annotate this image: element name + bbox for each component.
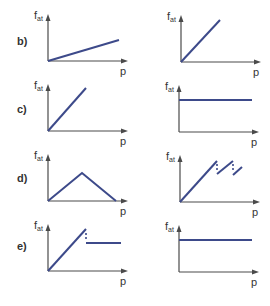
graph-b-left: fat p — [34, 9, 128, 77]
graph-e-right: fat p — [165, 220, 259, 288]
graph-c-right: fat p — [165, 80, 259, 148]
x-axis-label: p — [120, 275, 126, 287]
row-label-d: d) — [17, 172, 28, 184]
x-axis-label: p — [120, 65, 126, 77]
y-axis-label: fat — [165, 220, 174, 233]
graph-d-left: fat p — [34, 149, 128, 217]
graph-c-left: fat p — [34, 79, 128, 147]
y-axis-label: fat — [34, 219, 43, 232]
diagram-canvas: b) c) d) e) fat p fat p fat p fat p fat … — [0, 0, 270, 306]
x-axis-label: p — [253, 66, 259, 78]
y-axis-label: fat — [166, 150, 175, 163]
y-axis-label: fat — [165, 80, 174, 93]
row-label-b: b) — [17, 35, 28, 47]
row-label-e: e) — [17, 240, 27, 252]
x-axis-label: p — [120, 205, 126, 217]
graph-b-right: fat p — [167, 10, 261, 78]
y-axis-label: fat — [34, 149, 43, 162]
x-axis-label: p — [252, 206, 258, 218]
y-axis-label: fat — [34, 9, 43, 22]
x-axis-label: p — [251, 276, 257, 288]
graph-e-left: fat p — [34, 219, 128, 287]
x-axis-label: p — [251, 136, 257, 148]
y-axis-label: fat — [167, 10, 176, 23]
x-axis-label: p — [120, 135, 126, 147]
row-label-c: c) — [17, 103, 27, 115]
y-axis-label: fat — [34, 79, 43, 92]
graph-d-right: fat p — [166, 150, 260, 218]
